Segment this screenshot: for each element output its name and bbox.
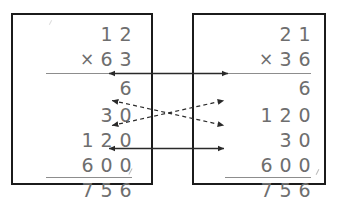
left-partial-product-4: 6 0 0	[37, 154, 135, 176]
left-partial-product-2: 3 0	[37, 104, 135, 126]
left-total-row: 7 5 6	[37, 179, 135, 197]
right-partial-product-4: 6 0 0	[216, 154, 314, 176]
left-total-rule	[46, 177, 132, 178]
left-total-digit-2: 6	[116, 179, 135, 197]
right-multiplier-digit-0: 3	[276, 48, 295, 70]
right-total-digit-0: 7	[257, 179, 276, 197]
left-partial-product-3: 1 2 0	[37, 129, 135, 151]
right-multiplier-row: × 3 6	[216, 48, 314, 70]
left-total-digit-0: 7	[78, 179, 97, 197]
left-multiplier-digit-0: 6	[97, 48, 116, 70]
right-partial-3-digit-1: 3	[276, 129, 295, 151]
right-partial-product-1: 6	[216, 77, 314, 99]
right-partial-2-digit-2: 0	[295, 104, 314, 126]
multiplication-operator-icon: ×	[77, 48, 97, 70]
left-partial-4-digit-0: 6	[78, 154, 97, 176]
right-partial-product-3: 3 0	[216, 129, 314, 151]
right-total-rule	[225, 177, 311, 178]
right-total-digit-2: 6	[295, 179, 314, 197]
left-partial-2-digit-2: 0	[116, 104, 135, 126]
left-multiplicand-digit-0: 1	[97, 23, 116, 45]
right-partial-2-digit-1: 2	[276, 104, 295, 126]
right-partial-2-digit-0: 1	[257, 104, 276, 126]
figure-canvas: 1 2 × 6 3 6 3 0	[0, 0, 342, 197]
left-multiplier-digit-1: 3	[116, 48, 135, 70]
right-calculation: 2 1 × 3 6 6 1 2 0	[194, 15, 324, 183]
right-total-row: 7 5 6	[216, 179, 314, 197]
right-operator-rule	[225, 73, 311, 74]
multiplication-operator-icon: ×	[256, 48, 276, 70]
left-multiplication-panel: 1 2 × 6 3 6 3 0	[11, 13, 153, 185]
right-multiplicand-row: 2 1	[216, 23, 314, 45]
right-multiplication-panel: 2 1 × 3 6 6 1 2 0	[192, 13, 326, 185]
right-multiplicand-digit-0: 2	[276, 23, 295, 45]
left-multiplicand-row: 1 2	[37, 23, 135, 45]
left-partial-2-digit-1: 3	[97, 104, 116, 126]
right-partial-product-2: 1 2 0	[216, 104, 314, 126]
left-multiplier-row: × 6 3	[37, 48, 135, 70]
right-multiplicand-digit-1: 1	[295, 23, 314, 45]
right-total-digit-1: 5	[276, 179, 295, 197]
right-partial-4-digit-2: 0	[295, 154, 314, 176]
left-calculation: 1 2 × 6 3 6 3 0	[13, 15, 151, 183]
left-partial-3-digit-2: 0	[116, 129, 135, 151]
left-partial-4-digit-1: 0	[97, 154, 116, 176]
right-partial-4-digit-0: 6	[257, 154, 276, 176]
left-partial-4-digit-2: 0	[116, 154, 135, 176]
right-partial-4-digit-1: 0	[276, 154, 295, 176]
left-operator-rule	[46, 73, 132, 74]
left-partial-product-1: 6	[37, 77, 135, 99]
left-partial-3-digit-1: 2	[97, 129, 116, 151]
right-partial-3-digit-2: 0	[295, 129, 314, 151]
left-partial-3-digit-0: 1	[78, 129, 97, 151]
left-multiplicand-digit-1: 2	[116, 23, 135, 45]
left-total-digit-1: 5	[97, 179, 116, 197]
right-partial-1-digit-2: 6	[295, 77, 314, 99]
right-multiplier-digit-1: 6	[295, 48, 314, 70]
left-partial-1-digit-2: 6	[116, 77, 135, 99]
